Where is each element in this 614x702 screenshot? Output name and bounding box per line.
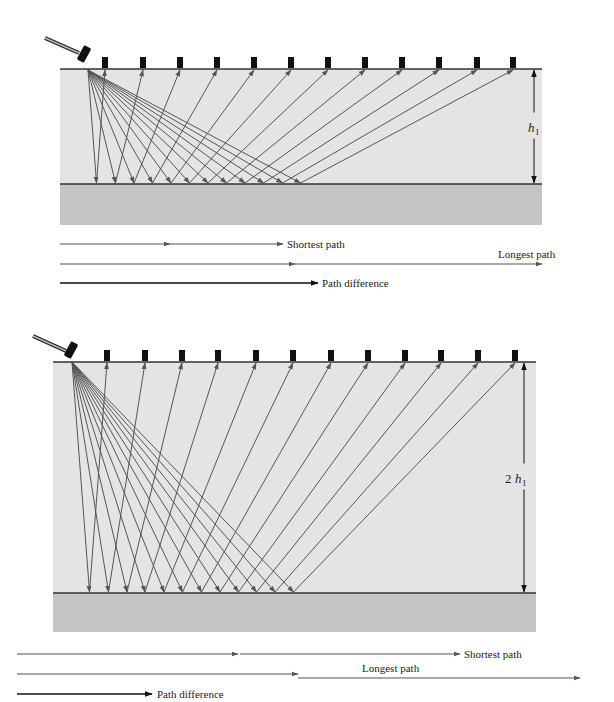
hammer-icon: [33, 336, 78, 359]
path-legend: Shortest pathLongest pathPath difference: [17, 648, 580, 700]
geophone-icon: [328, 350, 334, 361]
geophone-icon: [290, 350, 296, 361]
geophone-icon: [438, 350, 444, 361]
geophone-icon: [510, 57, 516, 68]
thickness-subscript: 1: [522, 478, 527, 488]
lower-layer: [53, 593, 536, 632]
panel-bottom: 2h1Shortest pathLongest pathPath differe…: [17, 336, 580, 700]
geophone-icon: [399, 57, 405, 68]
path-difference-label: Path difference: [322, 277, 389, 289]
geophone-icon: [102, 57, 108, 68]
thickness-symbol: h: [515, 471, 522, 486]
seismic-reflection-figure: h1Shortest pathLongest pathPath differen…: [0, 0, 614, 702]
geophone-icon: [288, 57, 294, 68]
lower-layer: [60, 184, 542, 225]
thickness-subscript: 1: [535, 127, 540, 137]
geophone-array: [102, 57, 516, 68]
geophone-icon: [104, 350, 110, 361]
thickness-multiplier: 2: [505, 471, 512, 486]
shortest-path-label: Shortest path: [287, 238, 345, 250]
geophone-icon: [402, 350, 408, 361]
geophone-icon: [140, 57, 146, 68]
geophone-icon: [475, 350, 481, 361]
thickness-symbol: h: [528, 120, 535, 135]
geophone-icon: [436, 57, 442, 68]
geophone-icon: [215, 350, 221, 361]
geophone-icon: [142, 350, 148, 361]
geophone-icon: [325, 57, 331, 68]
geophone-icon: [512, 350, 518, 361]
geophone-icon: [365, 350, 371, 361]
geophone-icon: [253, 350, 259, 361]
path-difference-label: Path difference: [157, 688, 224, 700]
geophone-icon: [251, 57, 257, 68]
geophone-icon: [214, 57, 220, 68]
longest-path-label: Longest path: [498, 248, 556, 260]
longest-path-label: Longest path: [362, 662, 420, 674]
hammer-icon: [45, 38, 91, 63]
geophone-icon: [474, 57, 480, 68]
shortest-path-label: Shortest path: [464, 648, 522, 660]
geophone-icon: [177, 57, 183, 68]
upper-layer: [60, 69, 542, 184]
geophone-icon: [362, 57, 368, 68]
geophone-icon: [179, 350, 185, 361]
panel-top: h1Shortest pathLongest pathPath differen…: [45, 38, 556, 289]
path-legend: Shortest pathLongest pathPath difference: [60, 238, 556, 289]
geophone-array: [104, 350, 518, 361]
